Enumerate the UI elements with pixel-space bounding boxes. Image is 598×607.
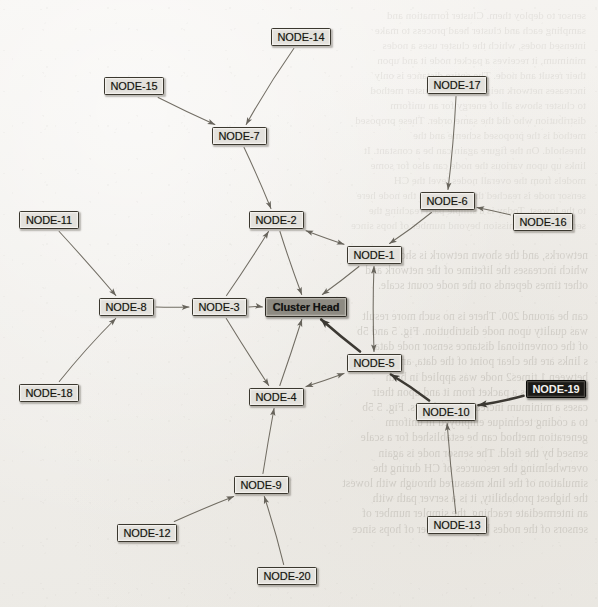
node-2-label: NODE-2 bbox=[256, 214, 297, 226]
node-7-label: NODE-7 bbox=[219, 130, 260, 142]
edge-node-19-to-node-10 bbox=[479, 396, 524, 405]
edge-node-15-to-node-7 bbox=[158, 98, 215, 125]
node-19[interactable]: NODE-19 bbox=[526, 380, 586, 398]
edge-node-2-to-node-1 bbox=[306, 231, 344, 245]
edge-node-12-to-node-9 bbox=[174, 497, 233, 522]
node-15-label: NODE-15 bbox=[111, 80, 158, 92]
edge-node-3-to-node-4 bbox=[226, 319, 268, 386]
edge-node-9-to-node-4 bbox=[263, 409, 274, 474]
edge-node-4-to-cluster-head bbox=[280, 320, 302, 386]
node-7[interactable]: NODE-7 bbox=[212, 127, 267, 145]
node-18-label: NODE-18 bbox=[26, 387, 73, 399]
edge-node-17-to-node-6 bbox=[448, 97, 456, 190]
node-14[interactable]: NODE-14 bbox=[271, 28, 331, 46]
edge-node-3-to-node-2 bbox=[227, 232, 269, 296]
node-2[interactable]: NODE-2 bbox=[249, 211, 304, 229]
node-10-label: NODE-10 bbox=[423, 406, 470, 418]
node-20[interactable]: NODE-20 bbox=[257, 567, 317, 585]
node-4[interactable]: NODE-4 bbox=[249, 388, 304, 406]
edge-node-7-to-node-2 bbox=[244, 148, 271, 209]
node-9-label: NODE-9 bbox=[241, 479, 282, 491]
node-20-label: NODE-20 bbox=[264, 570, 311, 582]
node-11[interactable]: NODE-11 bbox=[19, 211, 79, 229]
node-19-label: NODE-19 bbox=[533, 383, 580, 395]
edge-node-16-to-node-6 bbox=[477, 208, 511, 215]
node-10[interactable]: NODE-10 bbox=[416, 403, 476, 421]
node-13[interactable]: NODE-13 bbox=[427, 516, 487, 534]
node-17[interactable]: NODE-17 bbox=[427, 76, 487, 94]
node-3-label: NODE-3 bbox=[199, 301, 240, 313]
node-9[interactable]: NODE-9 bbox=[234, 476, 289, 494]
node-17-label: NODE-17 bbox=[434, 79, 481, 91]
node-13-label: NODE-13 bbox=[434, 519, 481, 531]
edge-node-18-to-node-8 bbox=[59, 319, 115, 382]
node-3[interactable]: NODE-3 bbox=[192, 298, 247, 316]
node-16[interactable]: NODE-16 bbox=[513, 213, 573, 231]
edge-node-20-to-node-9 bbox=[264, 497, 283, 565]
edge-node-13-to-node-10 bbox=[447, 424, 456, 514]
edge-node-1-to-cluster-head bbox=[322, 267, 359, 295]
cluster-head-label: Cluster Head bbox=[273, 301, 340, 313]
edge-node-11-to-node-8 bbox=[59, 232, 116, 296]
node-1[interactable]: NODE-1 bbox=[347, 246, 402, 264]
edge-node-14-to-node-7 bbox=[246, 49, 294, 125]
node-12-label: NODE-12 bbox=[124, 527, 171, 539]
node-15[interactable]: NODE-15 bbox=[104, 77, 164, 95]
node-12[interactable]: NODE-12 bbox=[117, 524, 177, 542]
node-11-label: NODE-11 bbox=[26, 214, 72, 226]
node-5-label: NODE-5 bbox=[354, 357, 395, 369]
node-16-label: NODE-16 bbox=[520, 216, 567, 228]
node-5[interactable]: NODE-5 bbox=[347, 354, 402, 372]
cluster-head[interactable]: Cluster Head bbox=[265, 297, 347, 317]
node-6[interactable]: NODE-6 bbox=[420, 192, 475, 210]
node-8-label: NODE-8 bbox=[106, 301, 147, 313]
edge-node-6-to-node-1 bbox=[390, 213, 432, 244]
node-18[interactable]: NODE-18 bbox=[19, 384, 79, 402]
node-8[interactable]: NODE-8 bbox=[99, 298, 154, 316]
edge-node-3-to-cluster-head bbox=[249, 306, 263, 307]
node-6-label: NODE-6 bbox=[427, 195, 468, 207]
edge-node-4-to-node-5 bbox=[306, 373, 344, 386]
edge-node-10-to-node-5 bbox=[391, 375, 429, 401]
edge-node-1-to-node-5 bbox=[373, 267, 374, 352]
edge-node-5-to-cluster-head bbox=[321, 320, 360, 352]
edge-node-2-to-cluster-head bbox=[280, 232, 302, 295]
node-1-label: NODE-1 bbox=[354, 249, 395, 261]
node-14-label: NODE-14 bbox=[278, 31, 325, 43]
node-4-label: NODE-4 bbox=[256, 391, 297, 403]
